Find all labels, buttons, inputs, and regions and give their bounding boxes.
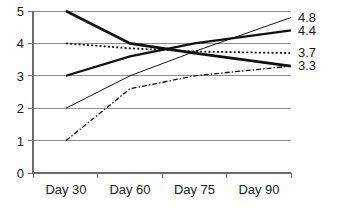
series-end-label-3-3: 3.3 bbox=[298, 58, 316, 73]
x-axis-tick-labels: Day 30 Day 60 Day 75 Day 90 bbox=[45, 182, 279, 197]
x-tick-label-day-90: Day 90 bbox=[238, 182, 279, 197]
y-tick-marks bbox=[28, 11, 33, 173]
y-tick-label-2: 2 bbox=[17, 101, 24, 116]
series-line-5 bbox=[66, 66, 291, 141]
y-tick-label-5: 5 bbox=[17, 4, 24, 19]
y-tick-label-4: 4 bbox=[17, 36, 24, 51]
x-tick-label-day-75: Day 75 bbox=[174, 182, 215, 197]
y-axis-tick-labels: 5 4 3 2 1 0 bbox=[17, 4, 24, 181]
y-tick-label-0: 0 bbox=[17, 166, 24, 181]
y-tick-label-1: 1 bbox=[17, 134, 24, 149]
series-end-label-4-4: 4.4 bbox=[298, 23, 316, 38]
line-chart: 5 4 3 2 1 0 Day 30 Day 60 Day 75 Day 90 bbox=[0, 0, 344, 208]
x-tick-label-day-30: Day 30 bbox=[45, 182, 86, 197]
series-end-labels: 4.8 4.4 3.7 3.3 bbox=[298, 10, 316, 73]
chart-canvas: 5 4 3 2 1 0 Day 30 Day 60 Day 75 Day 90 bbox=[0, 0, 344, 208]
y-tick-label-3: 3 bbox=[17, 69, 24, 84]
x-tick-label-day-60: Day 60 bbox=[109, 182, 150, 197]
x-tick-marks bbox=[33, 173, 291, 178]
